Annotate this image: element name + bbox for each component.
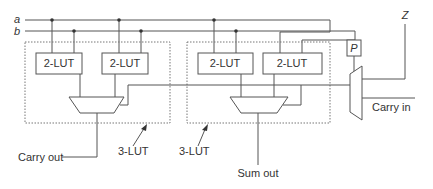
junction-dot <box>212 18 216 22</box>
right-mux <box>230 97 288 113</box>
left-mux-select <box>120 85 170 105</box>
junction-dot <box>117 18 121 22</box>
junction-dot <box>139 29 143 33</box>
junction-dot <box>234 29 238 33</box>
input-b-label: b <box>14 25 20 37</box>
wire-a-drop-4 <box>280 20 330 53</box>
input-wires <box>25 18 355 53</box>
lut-carry-chain-diagram: a b 2-LUT 2-LUT Carry out 3-LUT 3-LUT 2-… <box>0 0 433 189</box>
right-3lut-label: 3-LUT <box>179 145 210 157</box>
right-mux-select <box>283 85 301 105</box>
p-label: P <box>350 42 358 54</box>
right-2lut-2-label: 2-LUT <box>277 57 308 69</box>
z-output-wire <box>362 24 405 79</box>
junction-dot <box>50 18 54 22</box>
z-label: Z <box>401 9 410 21</box>
junction-dot <box>72 29 76 33</box>
left-3lut-block: 2-LUT 2-LUT <box>25 42 170 157</box>
sum-out-label: Sum out <box>238 167 279 179</box>
left-2lut-2-label: 2-LUT <box>110 57 141 69</box>
output-mux <box>350 66 362 120</box>
left-mux <box>69 97 124 113</box>
right-2lut-1-label: 2-LUT <box>210 57 241 69</box>
carry-out-wire <box>62 113 97 157</box>
arrow-head-icon <box>141 124 147 131</box>
left-2lut-1-label: 2-LUT <box>44 57 75 69</box>
arrow-head-icon <box>202 124 208 131</box>
input-a-label: a <box>14 13 20 25</box>
carry-out-label: Carry out <box>18 151 63 163</box>
left-3lut-label: 3-LUT <box>118 145 149 157</box>
carry-in-label: Carry in <box>372 101 411 113</box>
